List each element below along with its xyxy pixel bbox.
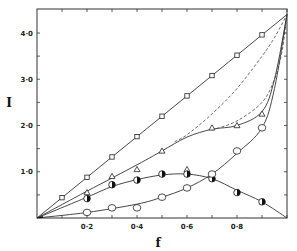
square-marker <box>60 195 64 199</box>
square-marker <box>160 114 164 118</box>
half-filled-circle-marker <box>84 195 91 202</box>
square-marker <box>110 155 114 159</box>
dashed-upper <box>175 15 288 142</box>
y-tick-label: 1·0 <box>21 168 34 176</box>
open-circle-marker <box>233 148 241 155</box>
y-tick-label: 2·0 <box>21 122 34 130</box>
half-filled-circle-marker <box>234 189 241 196</box>
square-marker <box>210 73 214 77</box>
triangle-marker <box>109 173 115 178</box>
y-tick-label: 3·0 <box>21 76 34 84</box>
y-axis-label: I <box>6 96 12 110</box>
open-circle-marker <box>258 125 266 132</box>
half-filled-circle-marker <box>184 171 191 178</box>
open-circle-marker <box>83 209 91 216</box>
triangle-marker <box>209 125 215 130</box>
triangle-marker <box>159 148 165 153</box>
square-marker <box>260 33 264 37</box>
open-circle-marker <box>108 205 116 212</box>
half-filled-circle-marker <box>134 177 141 184</box>
open-circle-marker <box>208 171 216 178</box>
half-filled-circle-marker <box>109 181 116 188</box>
chart: 0·20·40·60·81·02·03·04·0 f I <box>0 0 297 251</box>
y-tick-label: 4·0 <box>21 30 34 38</box>
square-marker <box>85 175 89 179</box>
x-tick-label: 0·2 <box>81 223 94 231</box>
square-marker <box>185 94 189 98</box>
half-filled-circle-marker <box>259 199 266 206</box>
x-tick-label: 0·4 <box>131 223 144 231</box>
x-tick-label: 0·6 <box>181 223 194 231</box>
x-tick-label: 0·8 <box>231 223 244 231</box>
square-marker <box>135 134 139 138</box>
open-circle-marker <box>158 194 166 201</box>
open-circle-marker <box>133 205 141 212</box>
triangle-marker <box>134 166 140 171</box>
square-marker <box>235 53 239 57</box>
half-filled-circle-marker <box>159 171 166 178</box>
open-circle-marker <box>183 185 191 192</box>
x-axis-label: f <box>155 236 161 250</box>
